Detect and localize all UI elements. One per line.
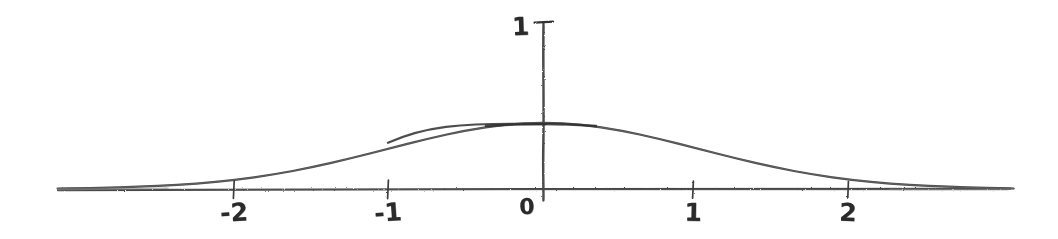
y-tick-1 <box>535 22 554 23</box>
origin-label: 0 <box>516 196 539 219</box>
x-axis-line <box>58 189 1010 190</box>
x-axis-tick-label-minus-1: -1 <box>363 198 413 226</box>
x-tick-2 <box>848 181 849 198</box>
normal-curve-stroke-main <box>58 123 1014 189</box>
y-axis-line <box>543 23 544 201</box>
x-axis-tick-label-minus-2: -2 <box>209 199 258 226</box>
normal-curve-figure: 1 0 -2 -1 1 2 <box>0 0 1058 239</box>
normal-curve <box>58 123 1014 190</box>
normal-curve-stroke-left-shoulder <box>388 124 546 143</box>
x-axis-tick-label-2: 2 <box>831 199 866 225</box>
y-axis-tick-label-1: 1 <box>512 14 530 40</box>
x-tick-minus-2 <box>233 181 234 199</box>
axes-group <box>58 22 1010 201</box>
x-axis-tick-label-1: 1 <box>676 200 710 226</box>
x-tick-1 <box>693 181 694 198</box>
normal-curve-stroke-ghost <box>58 123 1014 189</box>
x-tick-minus-1 <box>388 180 389 198</box>
normal-curve-mode-emphasis <box>486 124 596 126</box>
